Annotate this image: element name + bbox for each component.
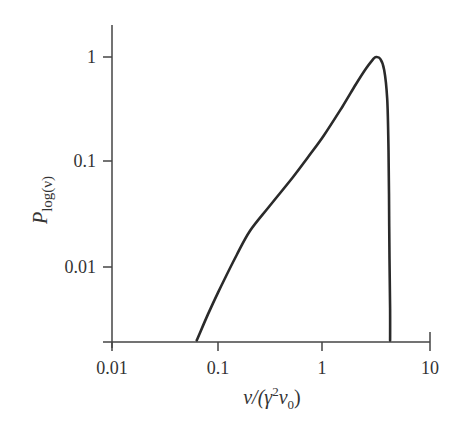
y-ticks (103, 57, 112, 267)
chart: 1 0.1 0.01 0.01 0.1 1 10 ν/(γ2ν0) Plog(ν… (0, 0, 458, 434)
y-tick-label-0.01: 0.01 (65, 257, 97, 277)
x-axis-title: ν/(γ2ν0) (243, 384, 301, 412)
x-tick-label-0.1: 0.1 (207, 358, 230, 378)
x-tick-label-1: 1 (318, 358, 327, 378)
y-tick-label-1: 1 (87, 47, 96, 67)
x-tick-label-0.01: 0.01 (96, 358, 128, 378)
y-axis-title: Plog(ν) (29, 176, 56, 225)
x-tick-label-10: 10 (421, 358, 439, 378)
y-tick-label-0.1: 0.1 (74, 151, 97, 171)
data-curve (197, 57, 390, 340)
